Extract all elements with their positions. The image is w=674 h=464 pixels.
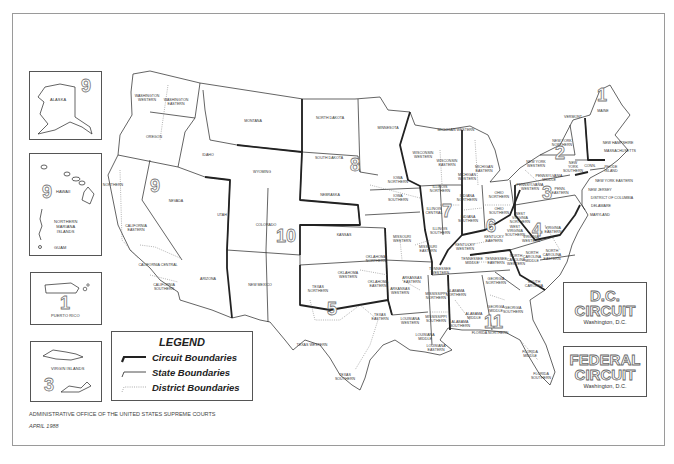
state-district-label: OKLAHOMA NORTHERN xyxy=(366,256,386,264)
state-district-label: WASHINGTON WESTERN xyxy=(135,95,160,103)
hawaii-label: HAWAII xyxy=(56,189,71,194)
state-district-label: CONN. xyxy=(584,165,596,169)
state-district-label: DELAWARE xyxy=(591,205,611,209)
northern-mariana-islands-label: NORTHERN MARIANA ISLANDS xyxy=(54,219,77,234)
footer-agency: ADMINISTRATIVE OFFICE OF THE UNITED STAT… xyxy=(29,411,216,417)
state-district-label: ARKANSAS EASTERN xyxy=(402,277,422,285)
state-district-label: TEXAS NORTHERN xyxy=(308,286,328,294)
state-district-label: OHIO NORTHERN xyxy=(489,192,509,200)
state-district-label: PENN. EASTERN xyxy=(552,188,569,196)
state-district-label: FLORIDA SOUTHERN xyxy=(531,373,551,381)
legend-label-district: District Boundaries xyxy=(152,382,240,393)
state-district-label: ILLINOIS CENTRAL xyxy=(426,208,443,216)
hawaii-islands-icon xyxy=(30,154,101,255)
dc-circuit-line2: CIRCUIT xyxy=(564,303,646,318)
circuit-number-4: 4 xyxy=(532,220,542,241)
circuit-number-10: 10 xyxy=(276,226,296,247)
puerto-rico-circuit-number: 1 xyxy=(60,293,70,314)
federal-circuit-location: Washington, D.C. xyxy=(564,383,646,389)
state-district-label: LOUISIANA WESTERN xyxy=(400,318,419,326)
state-district-label: MARYLAND xyxy=(590,214,610,218)
virgin-islands-label: VIRGIN ISLANDS xyxy=(51,366,84,371)
virgin-islands-shape-icon xyxy=(31,342,101,401)
circuit-number-8: 8 xyxy=(350,155,360,176)
state-district-label: NEW HAMPSHIRE xyxy=(603,142,634,146)
state-district-label: SOUTH CAROLINA xyxy=(525,281,543,289)
state-district-label: CALIFORNIA SOUTHERN xyxy=(153,284,175,292)
state-district-label: INDIANA NORTHERN xyxy=(457,195,477,203)
virgin-islands-circuit-number: 3 xyxy=(44,375,54,396)
legend-title: LEGEND xyxy=(112,336,252,348)
state-district-label: ALABAMA SOUTHERN xyxy=(450,321,470,329)
state-district-label: MICHIGAN WESTERN xyxy=(438,129,475,133)
state-district-label: NORTH DAKOTA xyxy=(316,117,344,121)
state-district-label: ARIZONA xyxy=(200,278,216,282)
circuit-number-1: 1 xyxy=(597,85,607,106)
state-district-label: CALIFORNIA CENTRAL xyxy=(138,264,177,268)
state-district-label: WEST VIRGINIA SOUTHERN xyxy=(505,226,525,237)
state-district-label: MONTANA xyxy=(244,120,262,124)
state-district-label: ILLINOIS NORTHERN xyxy=(430,186,450,194)
puerto-rico-label: PUERTO RICO xyxy=(51,313,80,318)
state-district-label: NORTH CAROLINA EASTERN xyxy=(543,250,561,261)
dc-circuit-line1: D.C. xyxy=(564,288,646,303)
inset-hawaii: 9 HAWAII NORTHERN MARIANA ISLANDS GUAM xyxy=(29,153,102,256)
thin-line-icon xyxy=(120,368,146,378)
footer-date: APRIL 1988 xyxy=(29,423,59,429)
circuit-number-5: 5 xyxy=(327,299,337,320)
state-district-label: ARKANSAS WESTERN xyxy=(390,288,410,296)
dc-circuit-location: Washington, D.C. xyxy=(564,319,646,325)
state-district-label: DISTRICT OF COLUMBIA xyxy=(591,197,633,201)
state-district-label: MISSOURI WESTERN xyxy=(393,236,411,244)
legend-item-circuit: Circuit Boundaries xyxy=(120,352,237,363)
alaska-circuit-number: 9 xyxy=(81,76,91,97)
state-district-label: MICHIGAN WESTERN xyxy=(458,174,476,182)
state-district-label: COLORADO xyxy=(256,224,277,228)
state-district-label: KENTUCKY WESTERN xyxy=(455,244,475,252)
legend-item-district: District Boundaries xyxy=(120,382,240,393)
state-district-label: MISSISSIPPI NORTHERN xyxy=(425,293,446,301)
thick-line-icon xyxy=(120,353,146,363)
state-district-label: MINNESOTA xyxy=(377,127,398,131)
state-district-label: MASSACHUSETTS xyxy=(604,150,636,154)
legend-label-state: State Boundaries xyxy=(152,367,230,378)
state-district-label: NEW YORK WESTERN xyxy=(526,161,546,169)
alaska-label: ALASKA xyxy=(50,97,66,102)
circuit-number-7: 7 xyxy=(442,201,452,222)
state-district-label: OREGON xyxy=(146,136,162,140)
federal-circuit-line1: FEDERAL xyxy=(564,352,646,367)
legend-item-state: State Boundaries xyxy=(120,367,230,378)
circuit-number-2: 2 xyxy=(555,143,565,164)
state-district-label: NORTHERN xyxy=(103,184,123,188)
hawaii-circuit-number: 9 xyxy=(42,182,52,203)
circuit-number-6: 6 xyxy=(486,216,496,237)
state-district-label: PENNSYLVANIA MIDDLE xyxy=(535,175,562,183)
state-district-label: UTAH xyxy=(217,214,227,218)
state-district-label: ILLINOIS SOUTHERN xyxy=(430,228,450,236)
state-district-label: TEXAS SOUTHERN xyxy=(335,374,355,382)
state-district-label: NEW JERSEY xyxy=(588,189,611,193)
state-district-label: OKLAHOMA EASTERN xyxy=(368,281,388,289)
inset-alaska: ALASKA 9 xyxy=(29,71,102,140)
state-district-label: OHIO SOUTHERN xyxy=(489,208,509,216)
inset-puerto-rico: 1 PUERTO RICO xyxy=(30,272,102,325)
state-district-label: WYOMING xyxy=(253,171,271,175)
state-district-label: WASHINGTON EASTERN xyxy=(164,99,189,107)
state-district-label: LOUISIANA EASTERN xyxy=(426,345,445,353)
state-district-label: NEW YORK SOUTHERN xyxy=(563,162,583,173)
state-district-label: NEW MEXICO xyxy=(248,284,272,288)
state-district-label: GEORGIA NORTHERN xyxy=(486,278,506,286)
state-district-label: IOWA SOUTHERN xyxy=(388,195,408,203)
state-district-label: MISSISSIPPI SOUTHERN xyxy=(425,316,446,324)
state-district-label: SOUTH DAKOTA xyxy=(315,157,343,161)
state-district-label: VIRGINIA EASTERN xyxy=(545,227,562,235)
state-district-label: NEVADA xyxy=(169,200,184,204)
guam-label: GUAM xyxy=(54,245,66,250)
state-district-label: ALABAMA NORTHERN xyxy=(446,290,466,298)
state-district-label: VERMONT xyxy=(564,116,582,120)
state-district-label: NEBRASKA xyxy=(320,194,340,198)
state-district-label: NORTH CAROLINA MIDDLE xyxy=(523,252,541,263)
circuit-number-11: 11 xyxy=(484,312,503,333)
state-district-label: IDAHO xyxy=(202,154,213,158)
state-district-label: RHODE ISLAND xyxy=(605,166,618,174)
